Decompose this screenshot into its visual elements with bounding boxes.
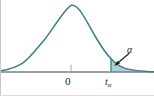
t-distribution-figure: 0 tα α: [0, 0, 154, 96]
critical-value-label: tα: [105, 77, 111, 89]
tail-area-alpha-label: α: [127, 45, 132, 55]
critical-value-subscript: α: [108, 81, 112, 89]
alpha-pointer-arrow: [114, 54, 129, 67]
x-axis-origin-label: 0: [65, 76, 71, 87]
bell-curve: [1, 5, 154, 72]
